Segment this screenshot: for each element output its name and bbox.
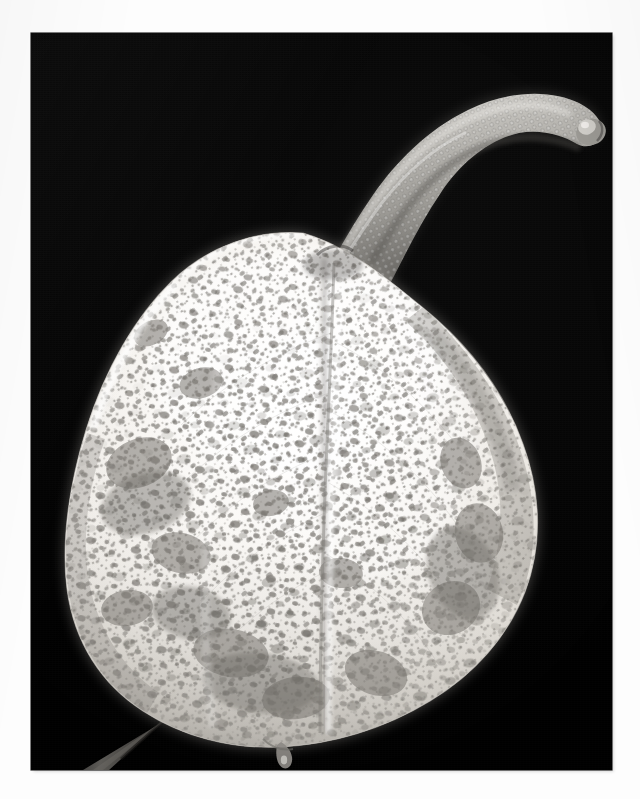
photograph-print — [31, 33, 612, 770]
spathe-group — [31, 33, 612, 770]
scanned-page: ANTHURIUM ANDRAEANUM — [0, 0, 640, 799]
running-head: ANTHURIUM ANDRAEANUM — [0, 0, 640, 3]
specimen-illustration — [31, 33, 612, 770]
